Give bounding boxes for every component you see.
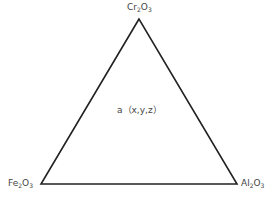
ternary-triangle: [0, 0, 276, 199]
triangle-outline: [41, 19, 237, 184]
vertex-label-fe2o3: Fe2O3: [8, 178, 33, 189]
vertex-label-cr2o3: Cr2O3: [127, 2, 152, 13]
point-label: a（x,y,z）: [117, 103, 162, 116]
vertex-label-al2o3: Al2O3: [241, 178, 264, 189]
